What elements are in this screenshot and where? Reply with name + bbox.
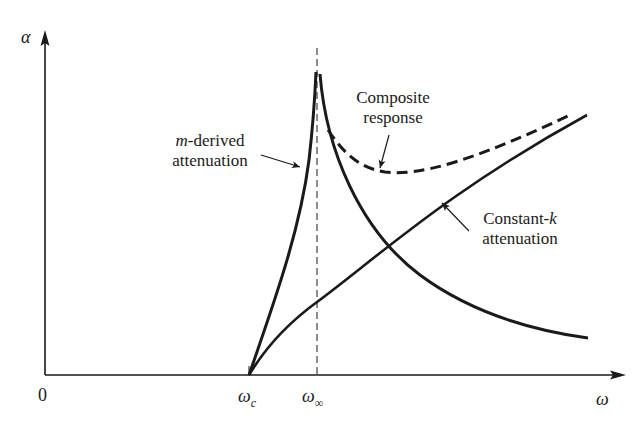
composite-annotation: Composite response bbox=[353, 88, 433, 128]
composite-line1: Composite bbox=[353, 88, 433, 108]
omega-inf-label: ω∞ bbox=[302, 386, 323, 408]
constant-k-line2: attenuation bbox=[468, 229, 572, 249]
m-derived-curve-left bbox=[249, 72, 316, 375]
omega-c-label: ωc bbox=[238, 386, 256, 408]
omega-c-base: ω bbox=[238, 386, 251, 406]
omega-inf-base: ω bbox=[302, 386, 315, 406]
m-derived-annotation: m-derived attenuation bbox=[160, 131, 260, 171]
origin-label: 0 bbox=[38, 385, 47, 405]
m-derived-line1: m-derived bbox=[160, 131, 260, 151]
m-derived-pointer-arrow bbox=[261, 155, 300, 167]
constant-k-pointer-arrow bbox=[442, 203, 469, 231]
constant-k-annotation: Constant-k attenuation bbox=[468, 209, 572, 249]
x-axis-label: ω bbox=[596, 389, 609, 409]
m-derived-line2: attenuation bbox=[160, 151, 260, 171]
composite-line2: response bbox=[353, 108, 433, 128]
omega-inf-subscript: ∞ bbox=[315, 396, 324, 410]
composite-pointer-arrow bbox=[380, 135, 389, 168]
y-axis-label: α bbox=[21, 27, 30, 47]
constant-k-line1: Constant-k bbox=[468, 209, 572, 229]
omega-c-subscript: c bbox=[251, 396, 256, 410]
